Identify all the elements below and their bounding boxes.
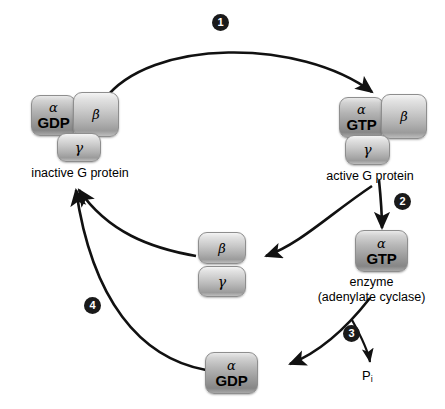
active-beta-greek-label: β xyxy=(400,110,408,123)
active-g-protein-caption: active G protein xyxy=(305,169,435,183)
enzyme-caption-line-2: (adenylate cyclase) xyxy=(298,290,445,304)
inactive-beta-greek-label: β xyxy=(92,108,100,121)
active-alpha-nucleotide-label: GTP xyxy=(346,117,376,132)
inactive-gamma-subunit: γ xyxy=(57,133,101,162)
step-badge-3: 3 xyxy=(343,325,360,342)
inactive-alpha-greek-label: α xyxy=(49,101,58,114)
arrow-step-1 xyxy=(104,52,372,100)
step-badge-4: 4 xyxy=(84,297,101,314)
alpha-gtp-nucleotide-label: GTP xyxy=(366,251,396,266)
active-gamma-greek-label: γ xyxy=(363,143,371,157)
active-alpha-subunit: α GTP xyxy=(339,97,384,138)
dimer-beta-greek-label: β xyxy=(218,242,226,255)
dimer-gamma-subunit: γ xyxy=(198,266,246,297)
active-beta-subunit: β xyxy=(381,94,427,139)
enzyme-caption-line-1: enzyme xyxy=(298,275,445,289)
inactive-beta-subunit: β xyxy=(73,92,119,137)
alpha-gtp-greek-label: α xyxy=(377,237,386,250)
alpha-gdp-subunit: α GDP xyxy=(205,352,258,394)
inorganic-phosphate-label: Pi xyxy=(362,368,373,383)
g-protein-cycle-diagram: α GDP β γ inactive G protein α GTP β γ a… xyxy=(0,0,445,409)
alpha-gtp-enzyme-subunit: α GTP xyxy=(355,230,408,272)
inactive-g-protein-caption: inactive G protein xyxy=(14,166,146,180)
phosphate-subscript: i xyxy=(371,374,373,384)
inactive-alpha-subunit: α GDP xyxy=(31,95,76,136)
arrow-step-2 xyxy=(379,180,382,228)
step-badge-2: 2 xyxy=(394,193,411,210)
arrow-layer xyxy=(0,0,445,409)
phosphate-symbol: P xyxy=(362,368,371,383)
inactive-alpha-nucleotide-label: GDP xyxy=(38,115,70,130)
arrow-step-4 xyxy=(76,190,206,370)
active-gamma-subunit: γ xyxy=(345,135,390,165)
arrow-beta-gamma-reassociate xyxy=(79,190,196,256)
alpha-gdp-nucleotide-label: GDP xyxy=(216,373,248,388)
alpha-gdp-greek-label: α xyxy=(227,359,236,372)
dimer-gamma-greek-label: γ xyxy=(218,275,226,289)
step-badge-1: 1 xyxy=(212,14,229,31)
active-alpha-greek-label: α xyxy=(357,103,366,116)
dimer-beta-subunit: β xyxy=(198,232,246,264)
inactive-gamma-greek-label: γ xyxy=(75,141,83,155)
